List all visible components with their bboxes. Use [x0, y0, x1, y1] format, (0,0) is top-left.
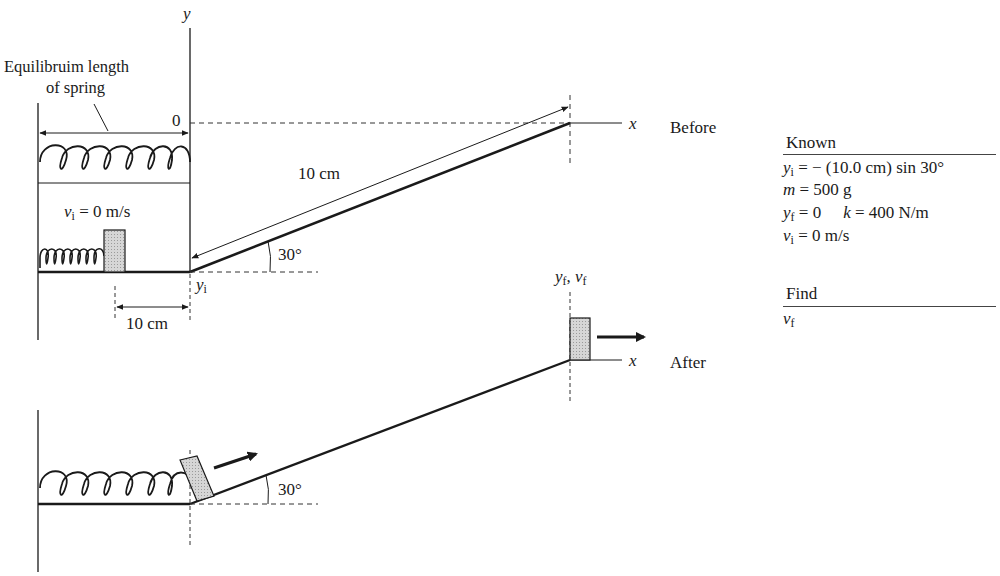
known-var: y [783, 203, 791, 222]
relaxed-spring-after [40, 471, 192, 495]
yi-sub: i [204, 282, 207, 296]
find-row-vf: vf [783, 309, 795, 331]
known-var: v [783, 226, 791, 245]
after-label: After [670, 354, 706, 371]
known-var: y [783, 158, 791, 177]
initial-velocity-label: vi = 0 m/s [64, 203, 130, 222]
known-row-m: m = 500 g [783, 180, 852, 200]
known-value-k: = 400 N/m [851, 203, 929, 222]
angle-arc-before [268, 241, 271, 272]
velocity-arrow-incline [214, 454, 256, 468]
yi-label: yi [196, 276, 207, 295]
known-value: = − (10.0 cm) sin 30° [794, 158, 944, 177]
known-title: Known [786, 133, 836, 153]
find-sub: f [791, 316, 795, 330]
incline-after [190, 360, 570, 504]
yf-var: y [555, 267, 563, 286]
known-var-k: k [843, 203, 851, 222]
known-row-yi: yi = − (10.0 cm) sin 30° [783, 158, 944, 180]
block-initial [104, 230, 125, 272]
x-axis-label-after: x [629, 352, 637, 369]
equilibrium-label-line1: Equilibruim length [4, 59, 129, 76]
block-final [570, 318, 590, 360]
incline-length-label: 10 cm [298, 165, 340, 182]
known-value: = 0 [795, 203, 822, 222]
known-value: = 0 m/s [794, 226, 849, 245]
before-label: Before [670, 119, 716, 136]
yf-vf-separator: , [567, 267, 576, 286]
find-title: Find [786, 284, 817, 304]
block-launching [180, 456, 214, 501]
y-axis-label: y [183, 5, 191, 22]
spring-incline-diagram [0, 0, 1000, 576]
vi-value: = 0 m/s [75, 202, 130, 221]
find-divider [783, 306, 996, 307]
known-row-vi: vi = 0 m/s [783, 226, 849, 248]
vi-var: v [64, 202, 72, 221]
known-divider [783, 154, 996, 155]
after-scene [38, 292, 644, 572]
yf-vf-label: yf, vf [555, 268, 587, 287]
find-var: v [783, 309, 791, 328]
equilibrium-label-line2: of spring [46, 80, 105, 97]
vf-sub: f [583, 274, 587, 288]
known-var: m [783, 180, 795, 199]
known-value: = 500 g [795, 180, 851, 199]
equilibrium-leader-line [94, 104, 108, 131]
compression-label: 10 cm [126, 315, 168, 332]
incline-before [190, 123, 570, 272]
angle-label-before: 30° [278, 246, 302, 263]
origin-label: 0 [172, 112, 181, 129]
angle-arc-after [266, 475, 269, 504]
compressed-spring [40, 249, 104, 268]
vf-var: v [575, 267, 583, 286]
relaxed-spring [40, 145, 190, 169]
x-axis-label-before: x [629, 115, 637, 132]
incline-length-arrow [192, 107, 568, 258]
angle-label-after: 30° [278, 481, 302, 498]
yi-var: y [196, 275, 204, 294]
known-row-yf-k: yf = 0k = 400 N/m [783, 203, 929, 225]
